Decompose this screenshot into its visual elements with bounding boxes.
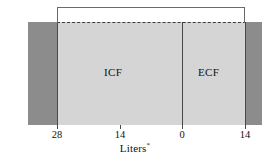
x-axis-label-text: Liters [120, 142, 147, 154]
x-axis-label: Liters* [0, 141, 270, 154]
x-tick-label-3: 14 [232, 129, 258, 140]
darrow-yannet-figure: Osmolarity ICF ECF 28 14 0 14 Liters* [0, 0, 270, 161]
icf-ecf-divider-line [182, 22, 183, 125]
right-boundary-line [245, 22, 246, 125]
left-boundary-line [57, 22, 58, 125]
x-axis-ticks: 28 14 0 14 [0, 125, 270, 141]
x-tick-label-2: 0 [169, 129, 195, 140]
x-axis-label-superscript: * [147, 141, 151, 149]
left-expansion-block [28, 22, 57, 125]
x-tick-label-1: 14 [107, 129, 133, 140]
icf-label: ICF [104, 66, 122, 78]
new-osmolarity-outline-box [57, 7, 245, 23]
right-expansion-block [245, 22, 262, 125]
plot-area [28, 22, 262, 125]
ecf-label: ECF [198, 66, 219, 78]
x-tick-label-0: 28 [44, 129, 70, 140]
